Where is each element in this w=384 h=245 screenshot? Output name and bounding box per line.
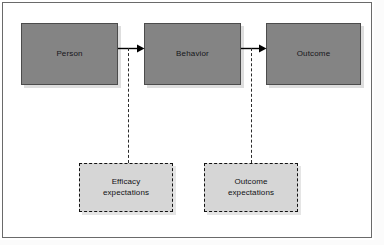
arrow-person-to-behavior: [118, 44, 145, 53]
page-margin-right: [374, 0, 384, 245]
dashed-connector-efficacy: [128, 48, 129, 163]
node-behavior: Behavior: [144, 23, 241, 85]
node-outcome-expectations-label: Outcome expectations: [228, 177, 274, 199]
arrow-behavior-to-outcome: [241, 44, 267, 53]
dashed-connector-outcome-expectations: [251, 48, 252, 163]
node-behavior-label: Behavior: [176, 49, 209, 58]
node-outcome-expectations-line1: Outcome: [234, 177, 267, 186]
node-outcome-label: Outcome: [297, 49, 331, 58]
node-efficacy-expectations-line1: Efficacy: [112, 177, 141, 186]
node-efficacy-expectations: Efficacy expectations: [79, 163, 173, 212]
node-person: Person: [21, 23, 118, 85]
figure-frame: Person Behavior Outcome Eff: [2, 2, 372, 238]
node-outcome: Outcome: [266, 23, 361, 85]
node-efficacy-expectations-label: Efficacy expectations: [103, 177, 149, 199]
node-person-label: Person: [56, 49, 82, 58]
page-margin-bottom: [0, 240, 384, 245]
node-outcome-expectations-line2: expectations: [228, 188, 274, 197]
node-outcome-expectations: Outcome expectations: [204, 163, 298, 212]
diagram-canvas: Person Behavior Outcome Eff: [0, 0, 384, 245]
node-efficacy-expectations-line2: expectations: [103, 188, 149, 197]
